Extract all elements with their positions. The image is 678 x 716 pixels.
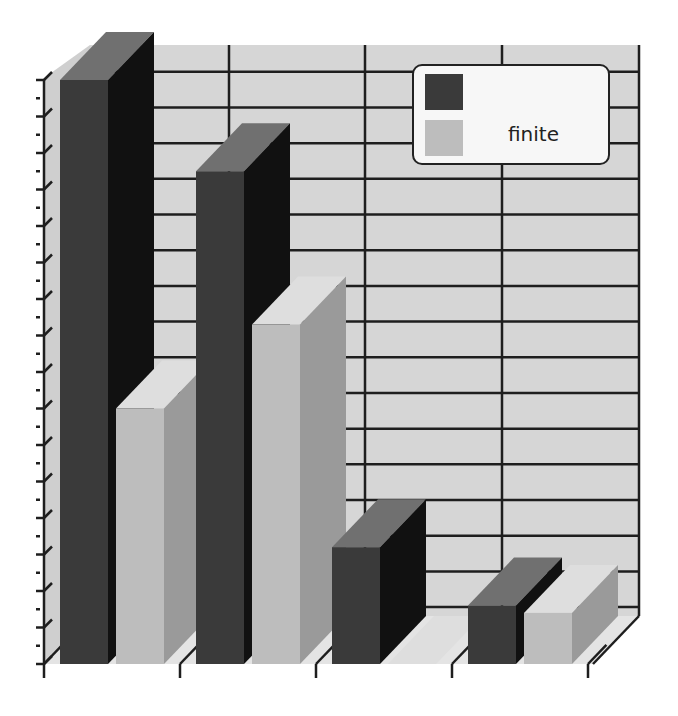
legend-label-series-2: finite <box>508 122 559 146</box>
legend-swatch-series-1 <box>425 74 463 110</box>
bar-g1-s2 <box>116 361 210 665</box>
legend-swatch-series-2 <box>425 120 463 156</box>
bar-g2-s2 <box>252 277 346 664</box>
legend: finite <box>412 64 610 165</box>
